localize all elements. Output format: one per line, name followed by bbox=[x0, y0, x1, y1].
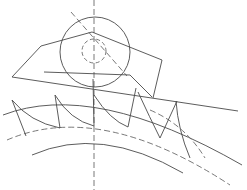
tilted-axis-line bbox=[71, 12, 127, 76]
hob-outer-circle bbox=[60, 17, 130, 87]
rack-line bbox=[12, 77, 238, 111]
gear-root-arc bbox=[32, 143, 183, 173]
gear-teeth bbox=[12, 79, 190, 158]
gear-addendum-arc bbox=[3, 105, 242, 165]
gear-hob-diagram: Hob cutter generating gear teeth bbox=[0, 0, 247, 190]
gear-pitch-circle bbox=[7, 127, 230, 185]
